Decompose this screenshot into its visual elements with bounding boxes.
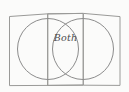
- left-rectangle-frame: [10, 13, 84, 85]
- intersection-label: Both: [53, 32, 77, 43]
- diagram-canvas: Both: [0, 0, 129, 92]
- venn-diagram-svg: Both: [0, 0, 129, 92]
